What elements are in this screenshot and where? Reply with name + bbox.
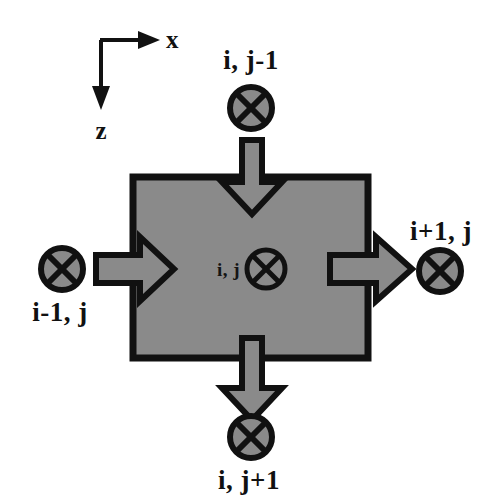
node-bottom[interactable]: i, j+1 xyxy=(218,416,280,495)
z-axis-arrowhead-icon xyxy=(92,86,110,110)
coordinate-axes: x z xyxy=(92,26,179,144)
node-right[interactable]: i+1, j xyxy=(410,216,472,292)
node-left-label: i-1, j xyxy=(32,297,87,327)
diagram-canvas: x z i, j-1 xyxy=(0,0,502,498)
node-bottom-label: i, j+1 xyxy=(218,465,280,495)
x-axis-label: x xyxy=(166,26,179,53)
node-left[interactable]: i-1, j xyxy=(32,248,87,327)
node-top[interactable]: i, j-1 xyxy=(223,45,278,129)
z-axis-label: z xyxy=(95,117,106,144)
x-axis-arrowhead-icon xyxy=(138,31,160,49)
node-top-label: i, j-1 xyxy=(223,45,278,75)
node-right-label: i+1, j xyxy=(410,216,472,246)
node-center-label: i, j xyxy=(217,259,240,280)
finite-difference-cell-diagram: x z i, j-1 xyxy=(0,0,502,498)
